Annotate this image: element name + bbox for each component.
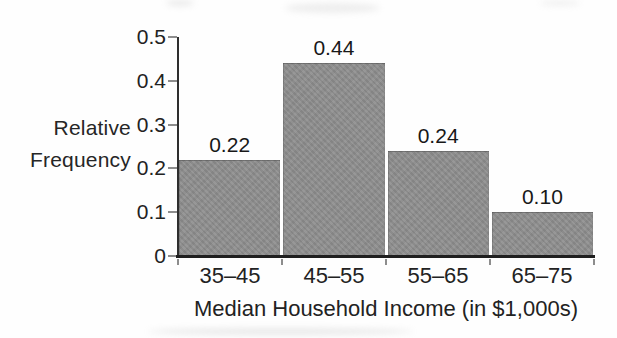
y-tick-mark bbox=[168, 36, 177, 38]
y-axis-title-line1: Relative bbox=[0, 112, 131, 144]
y-tick-mark bbox=[168, 124, 177, 126]
y-tick-label: 0.1 bbox=[137, 199, 166, 225]
scan-artifact bbox=[285, 3, 380, 13]
y-tick-mark bbox=[168, 80, 177, 82]
x-tick-label: 55–65 bbox=[407, 263, 468, 289]
scan-artifact bbox=[148, 328, 413, 335]
y-axis-title: Relative Frequency bbox=[0, 112, 131, 176]
y-tick-label: 0.5 bbox=[137, 24, 166, 50]
scan-artifact bbox=[166, 0, 194, 6]
x-tick-label: 35–45 bbox=[199, 263, 260, 289]
y-tick-mark bbox=[168, 167, 177, 169]
y-tick-label: 0 bbox=[154, 243, 166, 269]
x-axis-title: Median Household Income (in $1,000s) bbox=[168, 296, 604, 322]
y-tick-mark bbox=[168, 211, 177, 213]
histogram-figure: Relative Frequency 0.220.440.240.10 00.1… bbox=[0, 0, 617, 338]
x-tick-label: 65–75 bbox=[511, 263, 572, 289]
scan-artifact bbox=[540, 0, 580, 6]
y-tick-label: 0.2 bbox=[137, 155, 166, 181]
x-axis-line bbox=[176, 255, 595, 258]
y-axis-title-line2: Frequency bbox=[0, 144, 131, 176]
plot-area: 0.220.440.240.10 00.10.20.30.40.5 bbox=[178, 37, 594, 256]
x-tick-labels: 35–4545–5555–6565–75 bbox=[178, 263, 594, 291]
x-tick-layer bbox=[178, 37, 594, 256]
y-tick-label: 0.4 bbox=[137, 68, 166, 94]
y-axis-line bbox=[177, 37, 179, 258]
x-tick-label: 45–55 bbox=[303, 263, 364, 289]
y-tick-label: 0.3 bbox=[137, 112, 166, 138]
